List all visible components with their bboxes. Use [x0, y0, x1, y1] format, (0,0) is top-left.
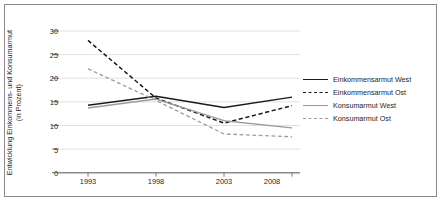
legend-item-einkommensarmut-ost[interactable]: Einkommensarmut Ost: [303, 86, 435, 99]
legend-line-dashed-gray-icon: [303, 115, 328, 123]
chart-page: Entwicklung Einkommens- und Konsumarmut …: [0, 0, 441, 201]
series-line-0: [88, 96, 292, 107]
plot-area: Entwicklung Einkommens- und Konsumarmut …: [0, 0, 441, 201]
legend-line-dashed-black-icon: [303, 89, 328, 97]
gridlines: [60, 31, 300, 149]
y-axis-ticks: [52, 31, 59, 173]
series-line-3: [88, 69, 292, 137]
series-line-1: [88, 40, 292, 123]
legend-label-0: Einkommensarmut West: [333, 75, 411, 84]
legend-label-2: Konsumarmut West: [333, 101, 396, 110]
legend-item-konsumarmut-ost[interactable]: Konsumarmut Ost: [303, 112, 435, 125]
legend-label-1: Einkommensarmut Ost: [333, 88, 406, 97]
chart-legend: Einkommensarmut West Einkommensarmut Ost…: [303, 73, 435, 125]
legend-label-3: Konsumarmut Ost: [333, 114, 391, 123]
legend-item-konsumarmut-west[interactable]: Konsumarmut West: [303, 99, 435, 112]
legend-item-einkommensarmut-west[interactable]: Einkommensarmut West: [303, 73, 435, 86]
legend-line-solid-black-icon: [303, 76, 328, 84]
legend-line-solid-gray-icon: [303, 102, 328, 110]
